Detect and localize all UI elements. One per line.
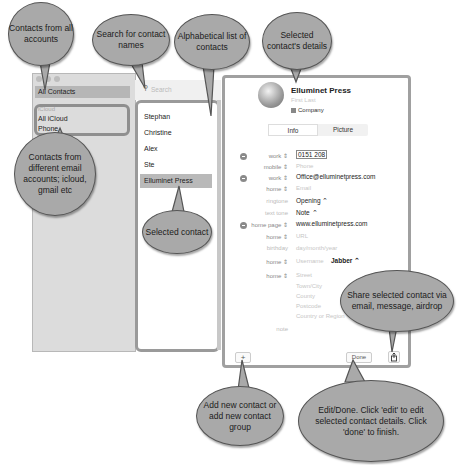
callout-selected-details: Selected contact's details — [262, 12, 332, 70]
callout-alphabetical: Alphabetical list of contacts — [174, 14, 250, 70]
callout-different-accounts: Contacts from different email accounts; … — [14, 132, 96, 216]
callout-add: Add new contact or add new contact group — [196, 386, 284, 446]
callout-search: Search for contact names — [92, 14, 170, 66]
callout-selected-contact: Selected contact — [142, 210, 212, 254]
callout-edit-done: Edit/Done. Click 'edit' to edit selected… — [298, 380, 444, 462]
callout-share: Share selected contact via email, messag… — [340, 270, 454, 332]
callout-all-accounts: Contacts from all accounts — [8, 2, 74, 66]
